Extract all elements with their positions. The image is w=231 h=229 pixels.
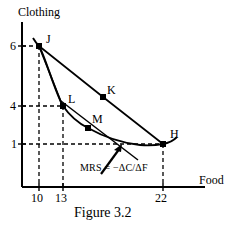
data-point-H [160,141,166,147]
x-tick-label-10: 10 [31,192,43,204]
data-point-L [60,103,66,109]
point-label-H: H [170,128,179,140]
mrs-annotation-text: MRS = −ΔC/ΔF [80,163,148,173]
figure-caption: Figure 3.2 [74,206,132,220]
data-point-M [85,125,91,131]
tangent-line [61,101,138,160]
point-label-K: K [107,84,116,96]
y-tick-label-4: 4 [10,100,16,112]
indifference-curve [33,38,177,145]
y-tick-label-6: 6 [10,40,16,52]
point-label-M: M [92,113,103,125]
point-label-L: L [68,93,75,105]
x-axis-title: Food [199,174,224,186]
point-label-J: J [46,33,51,45]
data-point-J [36,43,42,49]
y-axis-title: Clothing [18,6,60,18]
y-tick-label-1: 1 [11,138,17,150]
figure-container: Clothing Food 6 4 1 10 13 22 J L K M H M… [0,0,231,229]
x-tick-label-13: 13 [55,192,67,204]
x-tick-label-22: 22 [155,192,167,204]
data-point-K [100,94,106,100]
